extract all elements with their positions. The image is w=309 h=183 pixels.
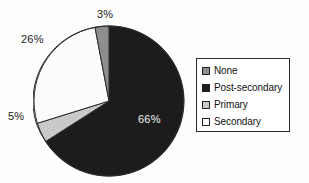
legend-item-primary[interactable]: Primary bbox=[202, 97, 285, 113]
legend-item-secondary[interactable]: Secondary bbox=[202, 114, 285, 130]
legend-label-secondary: Secondary bbox=[214, 117, 261, 127]
legend-label-primary: Primary bbox=[214, 100, 248, 110]
legend-item-post-secondary[interactable]: Post-secondary bbox=[202, 80, 285, 96]
legend-swatch-post-secondary-icon bbox=[202, 84, 210, 92]
chart-legend: None Post-secondary Primary Secondary bbox=[196, 58, 290, 132]
legend-swatch-none-icon bbox=[202, 67, 210, 75]
pie-label-none: 3% bbox=[97, 8, 113, 20]
pie-chart-svg bbox=[33, 25, 185, 177]
pie-chart bbox=[33, 25, 185, 177]
legend-label-post-secondary: Post-secondary bbox=[214, 83, 282, 93]
pie-label-post-secondary: 66% bbox=[138, 113, 161, 125]
legend-swatch-primary-icon bbox=[202, 101, 210, 109]
pie-label-secondary: 26% bbox=[21, 33, 44, 45]
legend-swatch-secondary-icon bbox=[202, 118, 210, 126]
legend-label-none: None bbox=[214, 66, 238, 76]
pie-chart-figure: 3% 26% 5% 66% None Post-secondary Primar… bbox=[0, 0, 309, 183]
legend-item-none[interactable]: None bbox=[202, 63, 285, 79]
pie-label-primary: 5% bbox=[8, 110, 24, 122]
